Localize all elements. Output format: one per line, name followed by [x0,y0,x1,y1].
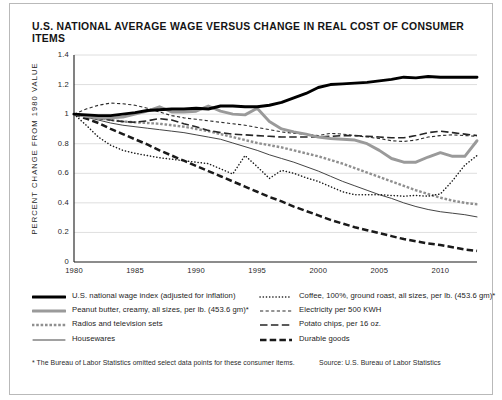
legend-column-left: U.S. national wage index (adjusted for i… [32,290,257,347]
legend-item[interactable]: Coffee, 100%, ground roast, all sizes, p… [259,290,484,304]
y-tick-label: 0 [43,257,69,266]
footnote-text: * The Bureau of Labor Statistics omitted… [32,359,295,366]
legend-label: Potato chips, per 16 oz. [299,319,381,328]
y-tick-label: 0.8 [43,139,69,148]
legend-item[interactable]: Radios and television sets [32,318,257,332]
y-tick-label: 0.6 [43,168,69,177]
y-tick-label: 0.4 [43,198,69,207]
legend-item[interactable]: U.S. national wage index (adjusted for i… [32,290,257,304]
x-tick-label: 2005 [359,266,399,275]
axis-lines [74,55,477,262]
x-tick-label: 1980 [54,266,94,275]
series-line [74,76,477,115]
legend-label: Housewares [72,334,115,343]
legend-label: U.S. national wage index (adjusted for i… [72,291,236,300]
legend-item[interactable]: Housewares [32,333,257,347]
x-tick-label: 1990 [176,266,216,275]
legend-item[interactable]: Peanut butter, creamy, all sizes, per lb… [32,304,257,318]
chart-svg [40,42,480,278]
y-axis-label: PERCENT CHANGE FROM 1980 VALUE [30,49,39,249]
series-line [74,114,477,217]
source-text: Source: U.S. Bureau of Labor Statistics [319,359,441,366]
x-tick-label: 2010 [420,266,460,275]
heavy-dash-black-icon [259,333,293,347]
y-tick-label: 0.2 [43,227,69,236]
legend-item[interactable]: Electricity per 500 KWH [259,304,484,318]
thick-solid-black-icon [32,290,66,304]
legend-label: Electricity per 500 KWH [299,305,381,314]
series-line [74,114,477,251]
x-tick-label: 2000 [298,266,338,275]
thick-solid-gray-icon [32,304,66,318]
legend-item[interactable]: Potato chips, per 16 oz. [259,318,484,332]
chart-legend: U.S. national wage index (adjusted for i… [32,290,484,348]
fine-dots-black-icon [259,290,293,304]
legend-label: Peanut butter, creamy, all sizes, per lb… [72,305,249,314]
gridlines [74,55,477,232]
short-dash-black-icon [259,304,293,318]
y-tick-label: 1.2 [43,80,69,89]
legend-label: Radios and television sets [72,319,163,328]
square-dots-gray-icon [32,318,66,332]
legend-item[interactable]: Durable goods [259,333,484,347]
thin-solid-black-icon [32,333,66,347]
plot-area: 00.20.40.60.811.21.4 1980198519901995200… [40,42,480,278]
series-lines [74,76,477,250]
legend-label: Durable goods [299,334,350,343]
chart-card: U.S. NATIONAL AVERAGE WAGE VERSUS CHANGE… [9,3,493,395]
series-line [74,114,477,204]
y-tick-label: 1.4 [43,50,69,59]
y-tick-label: 1 [43,109,69,118]
x-tick-label: 1995 [237,266,277,275]
long-dash-black-icon [259,318,293,332]
legend-column-right: Coffee, 100%, ground roast, all sizes, p… [259,290,484,347]
x-tick-label: 1985 [115,266,155,275]
legend-label: Coffee, 100%, ground roast, all sizes, p… [299,291,495,300]
